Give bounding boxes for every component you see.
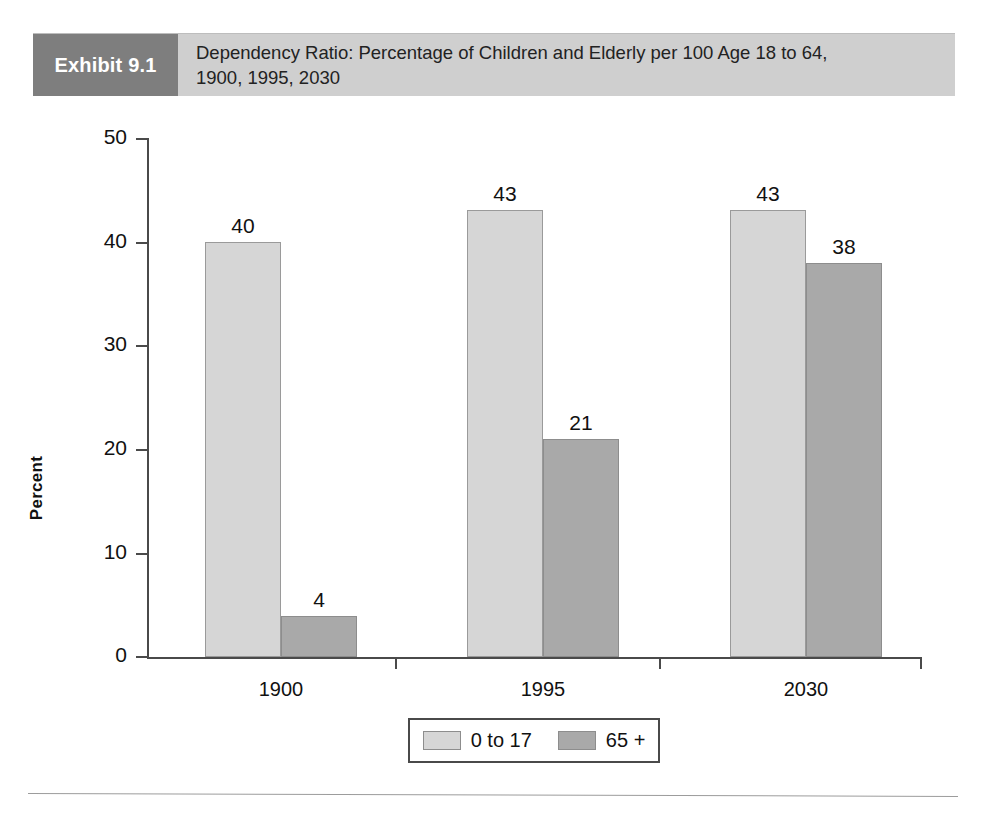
x-axis-line (147, 657, 922, 659)
y-tick-label-10: 10 (104, 540, 127, 564)
x-tick-separator-3 (920, 657, 922, 669)
bar-value-1995-0to17: 43 (493, 182, 516, 206)
legend-item-65plus[interactable]: 65 + (558, 729, 645, 752)
exhibit-header: Exhibit 9.1 Dependency Ratio: Percentage… (33, 33, 955, 96)
bar-value-1900-0to17: 40 (231, 214, 254, 238)
bar-1995-0to17[interactable]: 43 (467, 210, 543, 657)
y-axis-line (147, 138, 149, 657)
bottom-divider (28, 793, 958, 797)
bar-2030-0to17[interactable]: 43 (730, 210, 806, 657)
y-tick-20: 20 (136, 449, 147, 451)
bar-chart: Percent 0 10 20 30 40 50 40 4 (0, 100, 986, 790)
legend-swatch-light-icon (423, 731, 461, 750)
plot-area: 0 10 20 30 40 50 40 4 1900 43 (147, 138, 922, 657)
y-tick-label-50: 50 (104, 125, 127, 149)
bar-value-2030-65plus: 38 (832, 235, 855, 259)
legend-swatch-dark-icon (558, 731, 596, 750)
y-tick-10: 10 (136, 553, 147, 555)
bar-1995-65plus[interactable]: 21 (543, 439, 619, 657)
chart-legend: 0 to 17 65 + (408, 718, 660, 763)
y-tick-label-40: 40 (104, 229, 127, 253)
y-axis-title: Percent (27, 418, 47, 558)
bar-1900-65plus[interactable]: 4 (281, 616, 357, 657)
exhibit-number-badge: Exhibit 9.1 (33, 34, 178, 96)
exhibit-caption-line-2: 1900, 1995, 2030 (196, 66, 941, 91)
y-tick-label-0: 0 (115, 643, 127, 667)
y-tick-0: 0 (136, 656, 147, 658)
bar-2030-65plus[interactable]: 38 (806, 263, 882, 657)
x-tick-separator-1 (395, 657, 397, 669)
legend-label-65plus: 65 + (606, 729, 645, 752)
x-label-1995: 1995 (521, 678, 566, 701)
bar-value-1900-65plus: 4 (313, 588, 325, 612)
bar-1900-0to17[interactable]: 40 (205, 242, 281, 657)
legend-item-0to17[interactable]: 0 to 17 (423, 729, 532, 752)
exhibit-caption-line-1: Dependency Ratio: Percentage of Children… (196, 41, 941, 66)
exhibit-caption: Dependency Ratio: Percentage of Children… (178, 34, 955, 96)
legend-label-0to17: 0 to 17 (471, 729, 532, 752)
x-label-1900: 1900 (259, 678, 304, 701)
bar-value-2030-0to17: 43 (756, 182, 779, 206)
y-tick-40: 40 (136, 242, 147, 244)
bar-value-1995-65plus: 21 (569, 411, 592, 435)
x-label-2030: 2030 (784, 678, 829, 701)
y-tick-30: 30 (136, 345, 147, 347)
x-tick-separator-2 (659, 657, 661, 669)
y-tick-label-30: 30 (104, 332, 127, 356)
y-tick-50: 50 (136, 138, 147, 140)
y-tick-label-20: 20 (104, 436, 127, 460)
